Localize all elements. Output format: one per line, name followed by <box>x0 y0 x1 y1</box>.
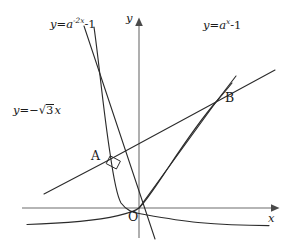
eq-line-equals: = <box>20 103 30 117</box>
equation-label-line: y=−√3x <box>13 104 61 117</box>
eq-line-variable: x <box>54 103 61 117</box>
figure-canvas <box>0 0 285 248</box>
eq-right-tail: -1 <box>230 18 241 32</box>
eq-left-equals: = <box>57 17 67 31</box>
origin-label: O <box>128 211 138 224</box>
point-label-b: B <box>225 92 234 105</box>
eq-line-sign: − <box>29 103 39 117</box>
axes-group <box>22 18 280 239</box>
y-axis-label: y <box>126 13 133 25</box>
curve-a-pow-neg2x <box>94 27 269 226</box>
line-ab-secant <box>44 70 275 194</box>
eq-right-equals: = <box>210 18 220 32</box>
equation-label-curve-left: y=a-2x-1 <box>50 19 96 31</box>
eq-left-tail: -1 <box>84 17 95 31</box>
line-ob <box>139 76 236 208</box>
math-figure: y=a-2x-1 y=ax-1 y=−√3x A B O x y <box>0 0 285 248</box>
equation-label-curve-right: y=ax-1 <box>203 20 241 32</box>
eq-left-base: a <box>66 17 73 31</box>
eq-right-base: a <box>219 18 226 32</box>
point-label-a: A <box>91 150 100 163</box>
right-angle-marker <box>106 156 120 169</box>
line-neg-sqrt3-x <box>84 26 155 239</box>
eq-left-exponent: -2x <box>73 16 84 25</box>
y-axis-arrowhead <box>135 18 143 27</box>
x-axis-label: x <box>268 213 275 225</box>
